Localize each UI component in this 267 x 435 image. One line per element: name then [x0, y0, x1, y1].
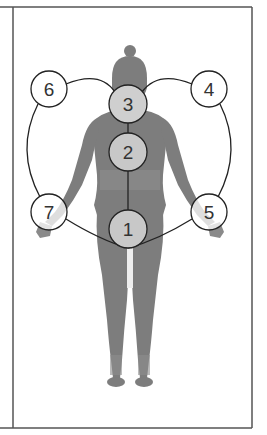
node-label: 5	[204, 202, 215, 223]
body-diagram: 6 4 3 2 7 5 1	[0, 0, 267, 435]
node-7[interactable]: 7	[31, 194, 67, 230]
node-4[interactable]: 4	[191, 71, 227, 107]
node-6[interactable]: 6	[31, 71, 67, 107]
node-label: 4	[204, 79, 215, 100]
node-3[interactable]: 3	[109, 85, 147, 123]
diagram-frame: 6 4 3 2 7 5 1	[0, 0, 267, 435]
node-label: 7	[44, 202, 55, 223]
node-label: 1	[123, 219, 134, 240]
node-2[interactable]: 2	[109, 133, 147, 171]
node-5[interactable]: 5	[191, 194, 227, 230]
node-1[interactable]: 1	[109, 210, 147, 248]
node-label: 2	[123, 142, 134, 163]
node-label: 6	[44, 79, 55, 100]
node-label: 3	[123, 94, 134, 115]
